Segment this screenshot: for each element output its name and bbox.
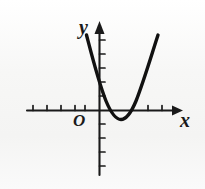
y-axis-arrowhead	[95, 21, 105, 34]
x-axis-group	[27, 106, 183, 116]
plot-canvas	[0, 0, 205, 189]
x-axis-label: x	[180, 110, 190, 130]
parabola-figure: y x O	[0, 0, 205, 189]
y-axis-label: y	[79, 17, 88, 37]
origin-label: O	[73, 112, 85, 129]
